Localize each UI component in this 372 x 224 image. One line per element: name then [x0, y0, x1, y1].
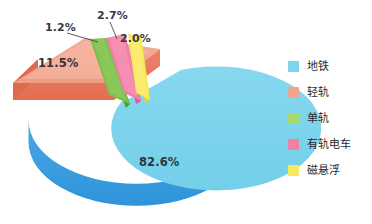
legend-swatch-icon — [288, 87, 299, 98]
legend-label-light-rail: 轻轨 — [307, 87, 329, 98]
legend-swatch-icon — [288, 113, 299, 124]
legend-swatch-icon — [288, 61, 299, 72]
value-label-tram: 2.7% — [97, 10, 128, 21]
value-label-light-rail: 11.5% — [38, 58, 78, 70]
legend-item-maglev[interactable]: 磁悬浮 — [288, 159, 370, 181]
legend-label-subway: 地铁 — [307, 61, 329, 72]
legend-item-monorail[interactable]: 单轨 — [288, 107, 370, 129]
legend-label-tram: 有轨电车 — [307, 139, 351, 150]
legend-item-light-rail[interactable]: 轻轨 — [288, 81, 370, 103]
chart-legend: 地铁 轻轨 单轨 有轨电车 磁悬浮 — [288, 55, 370, 185]
legend-item-subway[interactable]: 地铁 — [288, 55, 370, 77]
pie-chart-figure: 82.6% 11.5% 1.2% 2.7% 2.0% 地铁 轻轨 单轨 有轨电车… — [0, 0, 372, 224]
legend-label-maglev: 磁悬浮 — [307, 165, 340, 176]
value-label-subway: 82.6% — [139, 157, 179, 169]
legend-swatch-icon — [288, 139, 299, 150]
value-label-monorail: 1.2% — [45, 22, 76, 33]
legend-item-tram[interactable]: 有轨电车 — [288, 133, 370, 155]
legend-swatch-icon — [288, 165, 299, 176]
value-label-maglev: 2.0% — [120, 33, 151, 44]
legend-label-monorail: 单轨 — [307, 113, 329, 124]
